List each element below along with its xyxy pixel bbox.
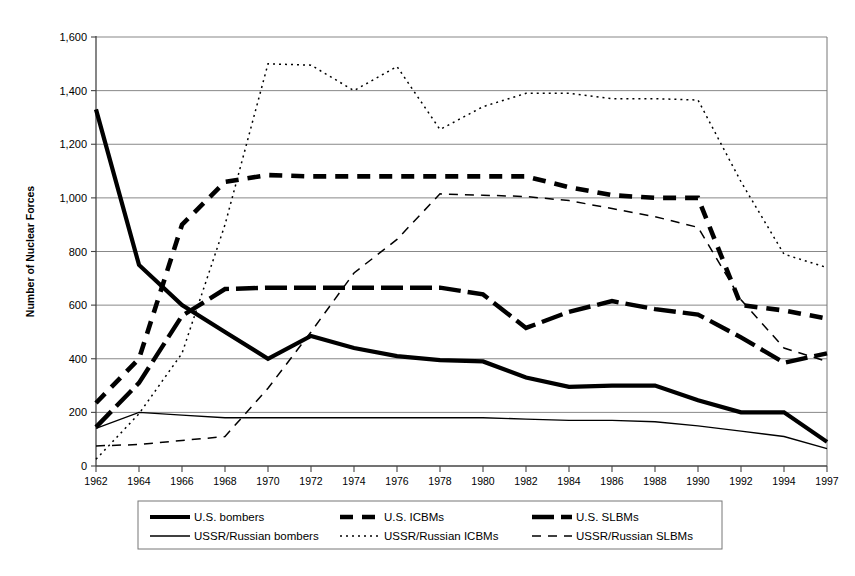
x-tick-label-1970: 1970 (256, 475, 280, 487)
x-tick-label-1984: 1984 (557, 475, 581, 487)
x-tick-label-1982: 1982 (514, 475, 538, 487)
x-tick-label-1978: 1978 (428, 475, 452, 487)
x-axis: 1962196419661968197019721974197619781980… (84, 466, 839, 487)
x-tick-label-1994: 1994 (772, 475, 796, 487)
legend: U.S. bombersU.S. ICBMsU.S. SLBMsUSSR/Rus… (138, 501, 722, 549)
legend-label-u-s-icbms: U.S. ICBMs (384, 511, 444, 523)
x-tick-label-1962: 1962 (84, 475, 108, 487)
x-tick-label-1968: 1968 (213, 475, 237, 487)
y-tick-label-600: 600 (69, 299, 87, 311)
x-tick-label-1964: 1964 (127, 475, 151, 487)
y-tick-label-200: 200 (69, 406, 87, 418)
y-tick-label-400: 400 (69, 353, 87, 365)
legend-label-u-s-slbms: U.S. SLBMs (576, 511, 639, 523)
y-tick-label-1000: 1,000 (59, 192, 87, 204)
legend-label-ussr-russian-slbms: USSR/Russian SLBMs (576, 530, 693, 542)
series-group (96, 64, 827, 459)
y-tick-label-1200: 1,200 (59, 138, 87, 150)
x-tick-label-1990: 1990 (686, 475, 710, 487)
y-axis: 02004006008001,0001,2001,4001,600 (59, 31, 96, 472)
x-tick-label-1988: 1988 (643, 475, 667, 487)
x-tick-label-1972: 1972 (299, 475, 323, 487)
x-tick-label-1986: 1986 (600, 475, 624, 487)
series-line-ussr-russian-icbms (96, 64, 827, 459)
x-tick-label-1976: 1976 (385, 475, 409, 487)
y-tick-label-1400: 1,400 (59, 85, 87, 97)
legend-label-u-s-bombers: U.S. bombers (194, 511, 265, 523)
y-tick-label-800: 800 (69, 246, 87, 258)
y-axis-title: Number of Nuclear Forces (24, 186, 36, 317)
series-line-u-s-bombers (96, 109, 827, 441)
x-tick-label-1974: 1974 (342, 475, 366, 487)
x-tick-label-1980: 1980 (471, 475, 495, 487)
series-line-ussr-russian-bombers (96, 412, 827, 448)
legend-label-ussr-russian-icbms: USSR/Russian ICBMs (384, 530, 499, 542)
x-tick-label-1992: 1992 (729, 475, 753, 487)
x-tick-label-1966: 1966 (170, 475, 194, 487)
y-tick-label-0: 0 (81, 460, 87, 472)
x-tick-label-1997: 1997 (815, 475, 839, 487)
nuclear-forces-chart-figure: 02004006008001,0001,2001,4001,600Number … (0, 0, 855, 576)
legend-label-ussr-russian-bombers: USSR/Russian bombers (194, 530, 319, 542)
chart-canvas: 02004006008001,0001,2001,4001,600Number … (0, 0, 855, 576)
series-line-u-s-icbms (96, 175, 827, 403)
y-tick-label-1600: 1,600 (59, 31, 87, 43)
gridlines-group (96, 37, 827, 412)
